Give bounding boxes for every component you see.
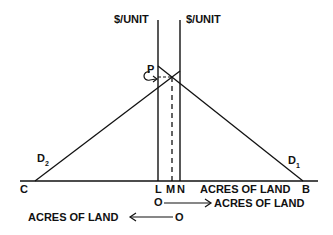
point-l-label: L [155, 183, 162, 195]
d1-label: D1 [288, 154, 300, 169]
point-m-label: M [166, 183, 175, 195]
right-origin-label: O [154, 196, 163, 208]
price-label: P [147, 63, 154, 75]
right-acres-label: ACRES OF LAND [214, 197, 305, 209]
point-n-label: N [177, 183, 185, 195]
land-market-diagram: $/UNIT $/UNIT P D2 D1 C L M N B ACRES OF… [0, 0, 333, 235]
d2-label: D2 [37, 152, 49, 167]
left-acres-label: ACRES OF LAND [28, 211, 119, 223]
left-axis-unit-label: $/UNIT [114, 13, 149, 25]
right-axis-unit-label: $/UNIT [186, 13, 221, 25]
point-b-label: B [302, 183, 310, 195]
point-c-label: C [20, 183, 28, 195]
upper-acres-label: ACRES OF LAND [200, 183, 291, 195]
left-origin-label: O [175, 211, 184, 223]
